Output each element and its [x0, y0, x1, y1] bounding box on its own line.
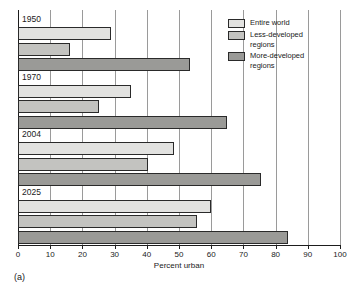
bar-2025-series-0 — [18, 200, 211, 213]
tick-10 — [50, 245, 51, 249]
legend-label-less-developed-regions: Less-developed regions — [250, 30, 303, 49]
bar-1950-series-0 — [18, 27, 111, 40]
bar-1950-series-2 — [18, 58, 190, 71]
bar-2004-series-0 — [18, 142, 174, 155]
tick-20 — [82, 245, 83, 249]
legend-item-less-developed-regions: Less-developed regions — [228, 30, 350, 49]
group-label-1950: 1950 — [22, 14, 41, 25]
tick-label-50: 50 — [175, 250, 184, 260]
figure-caption: (a) — [14, 272, 25, 283]
group-label-1970: 1970 — [22, 72, 41, 83]
legend-item-entire-world: Entire world — [228, 18, 350, 28]
tick-label-80: 80 — [271, 250, 280, 260]
tick-40 — [147, 245, 148, 249]
tick-80 — [276, 245, 277, 249]
tick-label-90: 90 — [303, 250, 312, 260]
bar-2025-series-1 — [18, 215, 197, 228]
tick-label-60: 60 — [207, 250, 216, 260]
bar-2025-series-2 — [18, 231, 288, 244]
legend-label-entire-world: Entire world — [250, 18, 290, 28]
bar-1950-series-1 — [18, 43, 70, 56]
legend-swatch-icon-more-developed-regions — [228, 52, 245, 61]
bar-2004-series-1 — [18, 158, 148, 171]
tick-label-30: 30 — [110, 250, 119, 260]
bar-group-2025: 2025 — [18, 187, 340, 247]
bar-1970-series-2 — [18, 116, 227, 129]
tick-50 — [179, 245, 180, 249]
legend-label-more-developed-regions: More-developed regions — [250, 51, 304, 70]
tick-label-100: 100 — [333, 250, 346, 260]
x-axis-title: Percent urban — [18, 261, 340, 271]
tick-label-40: 40 — [142, 250, 151, 260]
bar-group-2004: 2004 — [18, 129, 340, 189]
tick-0 — [18, 245, 19, 249]
tick-label-70: 70 — [239, 250, 248, 260]
tick-label-20: 20 — [78, 250, 87, 260]
bar-1970-series-0 — [18, 85, 131, 98]
urbanization-bar-chart: 1950197020042025 0102030405060708090100 … — [0, 0, 359, 288]
group-label-2004: 2004 — [22, 129, 41, 140]
tick-60 — [211, 245, 212, 249]
legend-item-more-developed-regions: More-developed regions — [228, 51, 350, 70]
tick-100 — [340, 245, 341, 249]
tick-label-0: 0 — [16, 250, 20, 260]
bar-group-1970: 1970 — [18, 72, 340, 132]
bar-1970-series-1 — [18, 100, 99, 113]
legend-swatch-icon-less-developed-regions — [228, 31, 245, 40]
tick-30 — [115, 245, 116, 249]
bar-2004-series-2 — [18, 173, 261, 186]
legend: Entire world Less-developed regions More… — [228, 18, 350, 72]
tick-label-10: 10 — [46, 250, 55, 260]
tick-90 — [308, 245, 309, 249]
group-label-2025: 2025 — [22, 187, 41, 198]
legend-swatch-icon-entire-world — [228, 19, 245, 28]
tick-70 — [243, 245, 244, 249]
